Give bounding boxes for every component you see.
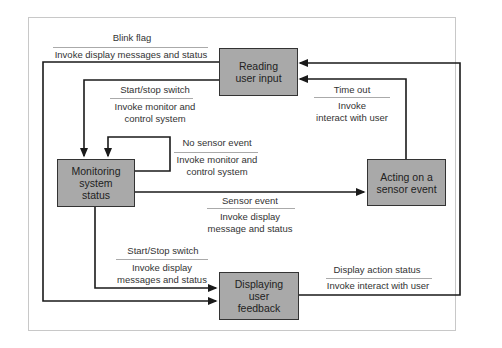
transition-action-no-sensor-event: Invoke monitor and control system	[170, 154, 264, 178]
transition-action-start-stop-switch-2: Invoke display messages and status	[110, 262, 214, 286]
transition-event-blink-flag: Blink flag	[52, 32, 212, 44]
transition-event-start-stop-switch: Start/stop switch	[105, 84, 205, 96]
transition-action-blink-flag: Invoke display messages and status	[46, 49, 216, 61]
transition-action-display-action-status: Invoke interact with user	[322, 280, 434, 292]
state-displaying-user-feedback: Displaying user feedback	[219, 272, 299, 320]
transition-event-time-out: Time out	[312, 84, 392, 96]
transition-divider	[174, 152, 258, 153]
transition-event-sensor-event: Sensor event	[200, 195, 300, 207]
transition-event-start-stop-switch-2: Start/Stop switch	[113, 245, 213, 257]
transition-action-time-out: Invoke interact with user	[308, 100, 396, 124]
transition-divider	[116, 259, 208, 260]
transition-event-no-sensor-event: No sensor event	[172, 137, 262, 149]
transition-divider	[326, 278, 432, 279]
transition-divider	[53, 47, 208, 48]
transition-action-sensor-event: Invoke display message and status	[200, 211, 300, 235]
transition-divider	[207, 208, 295, 209]
state-acting-on-sensor-event: Acting on a sensor event	[367, 159, 446, 206]
transition-action-start-stop-switch: Invoke monitor and control system	[105, 101, 205, 125]
transition-divider	[110, 98, 193, 99]
state-monitoring-system-status: Monitoring system status	[57, 159, 135, 207]
transition-event-display-action-status: Display action status	[322, 264, 432, 276]
state-reading-user-input: Reading user input	[219, 48, 298, 96]
transition-divider	[314, 97, 390, 98]
